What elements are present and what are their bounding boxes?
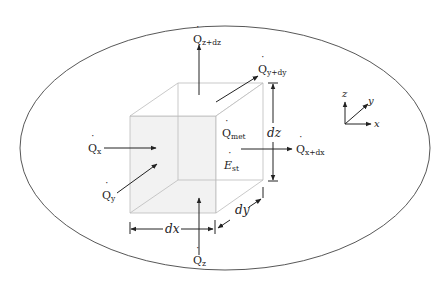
label-q-met: Qmet <box>222 128 246 141</box>
axis-label-z: z <box>342 89 347 99</box>
diagram-graphics <box>0 0 445 281</box>
label-q-y: Qy <box>102 190 115 203</box>
label-q-z-dz: Qz+dz <box>193 34 221 47</box>
axis-label-y: y <box>368 96 374 106</box>
label-q-x: Qx <box>88 143 101 156</box>
label-e-st: Est <box>224 160 239 173</box>
label-dy: dy <box>235 204 249 216</box>
diagram-canvas: Qz+dz Qy+dy Qx Qy Qmet Est Qx+dx Qz dz d… <box>0 0 445 281</box>
label-dz: dz <box>267 127 281 139</box>
label-q-y-dy: Qy+dy <box>258 64 287 77</box>
label-dx: dx <box>165 223 179 235</box>
label-q-z: Qz <box>193 255 206 268</box>
label-q-x-dx: Qx+dx <box>296 144 325 157</box>
axis-label-x: x <box>374 119 380 129</box>
